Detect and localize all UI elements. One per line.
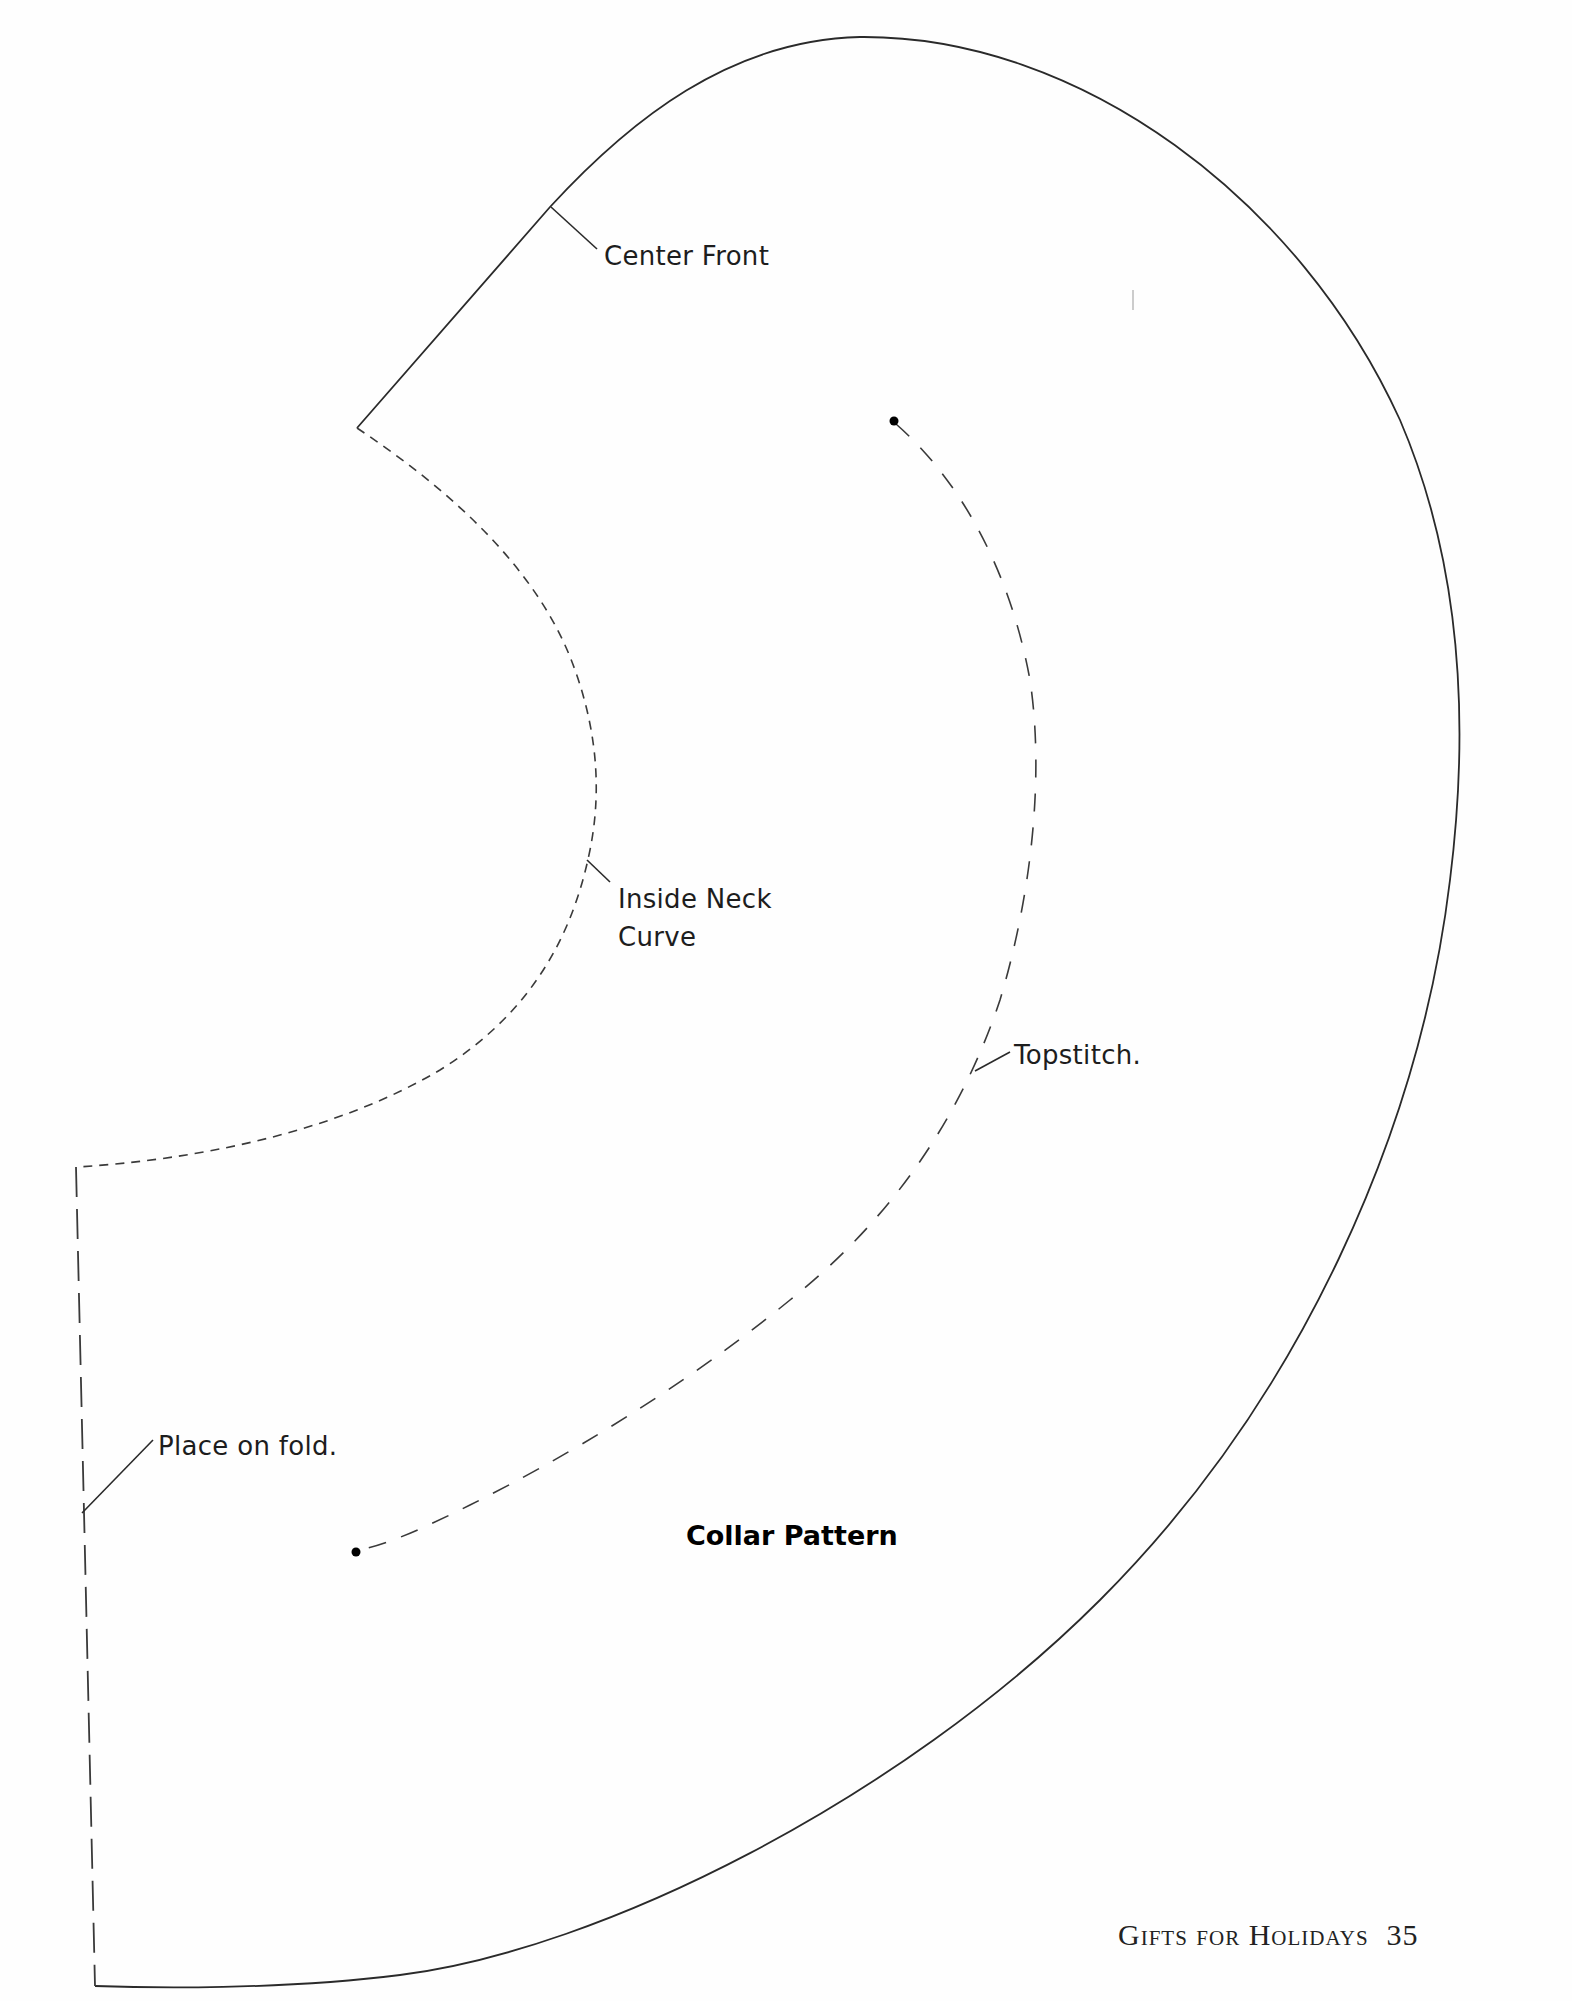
- topstitch-label: Topstitch.: [1014, 1036, 1141, 1074]
- outer-cutting-line: [95, 37, 1459, 1987]
- fold-line: [76, 1167, 95, 1986]
- topstitch-start-dot: [890, 417, 899, 426]
- place-on-fold-leader: [82, 1440, 153, 1513]
- inside-neck-label-line2: Curve: [618, 918, 696, 956]
- running-footer: Gifts for Holidays35: [1118, 1918, 1419, 1952]
- pattern-title: Collar Pattern: [686, 1520, 898, 1551]
- place-on-fold-label: Place on fold.: [158, 1427, 337, 1465]
- collar-pattern-drawing: [0, 0, 1572, 2001]
- center-front-label: Center Front: [604, 237, 769, 275]
- topstitch-end-dot: [352, 1548, 361, 1557]
- footer-section-title: Gifts for Holidays: [1118, 1918, 1369, 1951]
- topstitch-line: [360, 424, 1036, 1550]
- center-front-leader: [551, 207, 597, 249]
- inside-neck-label-line1: Inside Neck: [618, 880, 772, 918]
- pattern-page: Center Front Inside Neck Curve Topstitch…: [0, 0, 1572, 2001]
- inside-neck-curve-line: [77, 428, 596, 1167]
- page-number: 35: [1387, 1918, 1419, 1951]
- topstitch-leader: [975, 1052, 1010, 1071]
- inside-neck-leader: [587, 860, 610, 882]
